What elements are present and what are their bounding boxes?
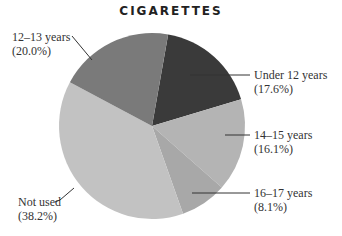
label-name: 16–17 years [254, 186, 312, 200]
label-under-12: Under 12 years (17.6%) [254, 68, 327, 96]
label-pct: (16.1%) [254, 142, 312, 156]
label-name: 12–13 years [12, 30, 70, 44]
label-pct: (38.2%) [18, 209, 61, 223]
label-name: Under 12 years [254, 68, 327, 82]
label-pct: (20.0%) [12, 44, 70, 58]
label-12-13: 12–13 years (20.0%) [12, 30, 70, 58]
label-14-15: 14–15 years (16.1%) [254, 128, 312, 156]
label-pct: (17.6%) [254, 82, 327, 96]
label-name: Not used [18, 195, 61, 209]
leader-line-12-13 [72, 36, 92, 60]
label-not-used: Not used (38.2%) [18, 195, 61, 223]
label-name: 14–15 years [254, 128, 312, 142]
label-16-17: 16–17 years (8.1%) [254, 186, 312, 214]
label-pct: (8.1%) [254, 200, 312, 214]
